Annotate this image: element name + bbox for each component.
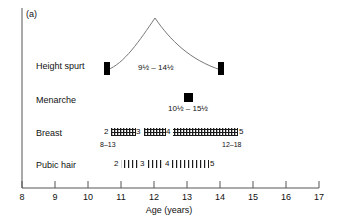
breast-stage-label-4: 4 <box>166 128 170 136</box>
row-label-menarche: Menarche <box>36 96 76 105</box>
x-tick-label-8: 8 <box>12 192 32 202</box>
menarche-marker <box>184 93 193 102</box>
puberty-timeline-figure: (a) Height spurt Menarche Breast Pubic h… <box>0 0 338 223</box>
x-tick-label-14: 14 <box>210 192 230 202</box>
x-tick-label-17: 17 <box>309 192 329 202</box>
breast-stage-label-3: 3 <box>136 128 140 136</box>
row-label-breast: Breast <box>36 129 62 138</box>
breast-stage-bars <box>111 128 238 136</box>
height-spurt-end-marker <box>218 62 224 75</box>
x-axis-title: Age (years) <box>0 205 338 215</box>
row-label-pubic-hair: Pubic hair <box>36 161 76 170</box>
breast-stage-label-5: 5 <box>239 128 243 136</box>
x-tick-label-9: 9 <box>45 192 65 202</box>
breast-end-range-note: 12–18 <box>222 141 241 148</box>
breast-stage-label-2: 2 <box>104 128 108 136</box>
x-tick-label-13: 13 <box>177 192 197 202</box>
x-tick-label-12: 12 <box>144 192 164 202</box>
height-spurt-start-marker <box>104 62 110 75</box>
x-tick-label-15: 15 <box>243 192 263 202</box>
row-label-height-spurt: Height spurt <box>36 62 85 71</box>
menarche-range-note: 10½ – 15½ <box>168 105 208 113</box>
pubic-stage-label-2: 2 <box>114 160 118 168</box>
x-tick-label-16: 16 <box>276 192 296 202</box>
pubic-stage-label-5: 5 <box>210 160 214 168</box>
x-tick-label-11: 11 <box>111 192 131 202</box>
x-axis-ticks <box>22 181 319 188</box>
pubic-stage-label-4: 4 <box>165 160 169 168</box>
panel-label: (a) <box>26 10 37 19</box>
height-spurt-range-note: 9½ – 14½ <box>138 64 174 72</box>
breast-start-range-note: 8–13 <box>100 141 116 148</box>
pubic-stage-label-3: 3 <box>140 160 144 168</box>
x-tick-label-10: 10 <box>78 192 98 202</box>
